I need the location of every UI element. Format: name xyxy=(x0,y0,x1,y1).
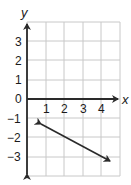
y-tick-label: −2 xyxy=(7,131,21,145)
x-tick-label: 3 xyxy=(80,102,87,116)
y-tick-label: 0 xyxy=(15,92,22,106)
y-axis-label: y xyxy=(20,5,29,20)
y-tick-label: −3 xyxy=(7,150,21,164)
x-tick-label: 1 xyxy=(43,102,50,116)
x-tick-label: 2 xyxy=(61,102,68,116)
y-tick-label: 3 xyxy=(15,35,22,49)
y-tick-label: 2 xyxy=(15,54,22,68)
coordinate-graph: y x 3 2 1 0 −1 −2 −3 1 2 3 4 xyxy=(0,0,131,185)
x-tick-label: 4 xyxy=(98,102,105,116)
x-axis-label: x xyxy=(121,92,129,107)
y-tick-label: −1 xyxy=(7,112,21,126)
y-tick-label: 1 xyxy=(15,73,22,87)
plotted-line xyxy=(41,124,110,161)
